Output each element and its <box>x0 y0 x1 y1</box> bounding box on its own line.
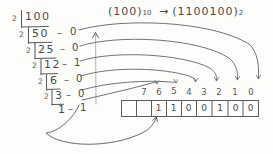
quotient-row-6: 1 <box>58 104 67 115</box>
bit-position-label-0: 0 <box>244 87 258 97</box>
separator-row-6: – <box>68 104 74 114</box>
remainder-row-1: 0 <box>70 27 77 37</box>
binary-base-subscript: 2 <box>239 9 243 17</box>
remainder-row-5: 0 <box>78 89 85 99</box>
remainder-row-6: 1 <box>80 103 87 113</box>
remainder-row-2: 0 <box>72 43 79 53</box>
divisor-row-5: 2 <box>44 93 49 101</box>
bit-position-label-3: 3 <box>197 87 211 97</box>
divisor-row-3: 2 <box>32 62 37 70</box>
quotient-row-3: 12 <box>44 59 61 70</box>
bit-box-7[interactable]: 0 <box>228 101 243 116</box>
binary-value: 1100100 <box>178 5 234 18</box>
quotient-row-2: 25 <box>38 44 55 55</box>
separator-row-5: – <box>66 90 72 100</box>
separator-row-4: – <box>64 75 70 85</box>
separator-row-3: – <box>62 59 68 69</box>
bit-position-label-6: 6 <box>152 87 166 97</box>
divisor-row-1: 2 <box>19 31 24 39</box>
bit-position-label-7: 7 <box>137 87 151 97</box>
separator-row-2: – <box>60 44 66 54</box>
worksheet-canvas: (100)10 →(1100100)2 2 2 2 2 2 2 100 50 2… <box>0 0 273 154</box>
bit-position-label-2: 2 <box>212 87 226 97</box>
divisor-row-2: 2 <box>26 47 31 55</box>
remainder-row-4: 0 <box>76 74 83 84</box>
bit-box-5[interactable]: 0 <box>196 101 212 116</box>
quotient-row-5: 3 <box>55 90 64 101</box>
decimal-value: 100 <box>113 5 137 18</box>
quotient-row-0: 100 <box>25 11 51 22</box>
bit-position-label-4: 4 <box>182 87 196 97</box>
conversion-arrow-icon: → <box>156 5 172 18</box>
quotient-row-1: 50 <box>32 28 49 39</box>
bit-position-label-5: 5 <box>167 86 181 96</box>
bit-box-3[interactable]: 1 <box>166 101 181 116</box>
bit-box-8[interactable]: 0 <box>243 101 258 116</box>
decimal-base-subscript: 10 <box>143 9 152 17</box>
remainder-row-3: 1 <box>74 58 81 68</box>
quotient-row-4: 6 <box>50 75 59 86</box>
separator-row-1: – <box>57 28 63 38</box>
bit-box-6[interactable]: 1 <box>212 101 228 116</box>
bit-box-4[interactable]: 0 <box>181 101 196 116</box>
conversion-expression: (100)10 →(1100100)2 <box>108 6 243 17</box>
divisor-row-4: 2 <box>38 78 43 86</box>
read-direction-arrow <box>96 34 97 104</box>
bit-box-2[interactable]: 1 <box>151 101 166 116</box>
bit-position-label-1: 1 <box>228 87 242 97</box>
divisor-row-0: 2 <box>12 15 17 23</box>
